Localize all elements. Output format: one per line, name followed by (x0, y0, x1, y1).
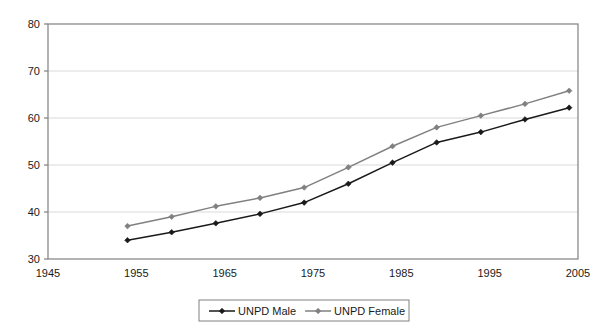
line-chart: 3040506070801945195519651975198519952005… (0, 0, 608, 331)
data-point-marker (169, 229, 175, 235)
series-line (128, 91, 570, 226)
x-axis-tick-label: 1975 (301, 267, 325, 279)
data-point-marker (301, 200, 307, 206)
data-point-marker (213, 220, 219, 226)
data-point-marker (125, 237, 131, 243)
data-point-marker (346, 181, 352, 187)
data-point-marker (434, 125, 440, 131)
y-axis-tick-label: 70 (28, 65, 40, 77)
data-point-marker (566, 105, 572, 111)
x-axis-tick-label: 1995 (477, 267, 501, 279)
x-axis-tick-label: 1985 (389, 267, 413, 279)
legend-label-1: UNPD Male (238, 305, 296, 317)
data-point-marker (522, 101, 528, 107)
y-axis-tick-label: 40 (28, 206, 40, 218)
data-point-marker (257, 195, 263, 201)
data-point-marker (566, 88, 572, 94)
x-axis-tick-label: 1945 (36, 267, 60, 279)
chart-canvas: 3040506070801945195519651975198519952005… (0, 0, 608, 331)
data-point-marker (169, 214, 175, 220)
data-point-marker (522, 117, 528, 123)
y-axis-tick-label: 80 (28, 18, 40, 30)
data-point-marker (390, 143, 396, 149)
data-point-marker (213, 204, 219, 210)
data-point-marker (125, 223, 131, 229)
y-axis-tick-label: 60 (28, 112, 40, 124)
x-axis-tick-label: 2005 (566, 267, 590, 279)
y-axis-tick-label: 30 (28, 253, 40, 265)
legend-label-2: UNPD Female (334, 305, 405, 317)
data-point-marker (434, 140, 440, 146)
y-axis-tick-label: 50 (28, 159, 40, 171)
x-axis-tick-label: 1955 (124, 267, 148, 279)
series-line (128, 108, 570, 241)
data-point-marker (478, 129, 484, 135)
x-axis-tick-label: 1965 (212, 267, 236, 279)
data-point-marker (301, 185, 307, 191)
